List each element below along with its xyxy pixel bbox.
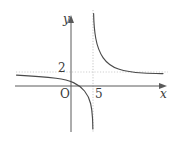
x-tick-label-5: 5: [95, 88, 103, 100]
hyperbola-figure: y x O 2 5: [0, 0, 173, 141]
y-tick-label-2: 2: [58, 62, 66, 74]
x-axis-label: x: [160, 88, 167, 100]
curve-right-branch: [94, 14, 163, 74]
origin-label: O: [60, 88, 70, 100]
plot-area: [0, 0, 173, 141]
y-axis-label: y: [63, 13, 70, 25]
curve-left-branch: [17, 75, 93, 129]
